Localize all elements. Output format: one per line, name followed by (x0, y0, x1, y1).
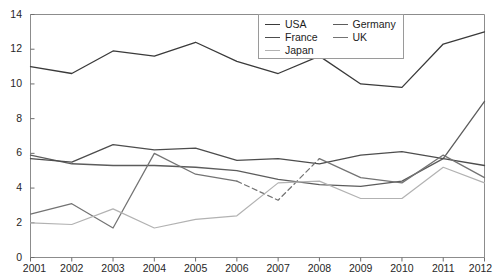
chart-screenshot: · · · 02468101214 2001200220032004200520… (0, 0, 496, 276)
chart-legend: USAFranceJapanGermanyUK (258, 14, 404, 59)
legend-line-swatch-icon (265, 37, 280, 38)
series-france (31, 145, 485, 166)
legend-column-2: GermanyUK (333, 18, 399, 57)
legend-label: UK (353, 32, 368, 43)
legend-label: France (285, 32, 318, 43)
legend-label: Germany (353, 19, 396, 30)
legend-line-swatch-icon (265, 50, 280, 51)
legend-item-germany[interactable]: Germany (333, 18, 399, 31)
legend-label: Japan (285, 45, 314, 56)
legend-line-swatch-icon (333, 24, 348, 25)
legend-line-swatch-icon (265, 24, 280, 25)
series-lines (31, 32, 485, 228)
legend-item-japan[interactable]: Japan (265, 44, 333, 57)
legend-item-usa[interactable]: USA (265, 18, 333, 31)
legend-item-uk[interactable]: UK (333, 31, 399, 44)
legend-label: USA (285, 19, 307, 30)
legend-column-1: USAFranceJapan (265, 18, 333, 57)
legend-line-swatch-icon (333, 37, 348, 38)
line-chart-plot (0, 0, 496, 276)
legend-item-france[interactable]: France (265, 31, 333, 44)
